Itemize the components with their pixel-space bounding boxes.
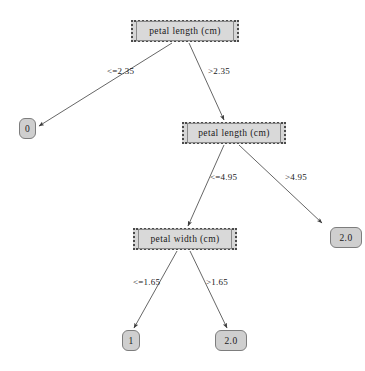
decision-node-n3[interactable]: petal width (cm)	[133, 228, 237, 250]
edge-label-e3: >4.95	[285, 172, 307, 182]
edge-label-e1: >2.35	[208, 66, 230, 76]
decision-node-label: petal width (cm)	[138, 229, 232, 249]
edge-label-e0: <=2.35	[107, 66, 134, 76]
leaf-node-n1[interactable]: 0	[19, 118, 36, 139]
tree-edge-e0	[39, 43, 172, 126]
tree-edge-e1	[189, 43, 224, 120]
leaf-node-n4[interactable]: 2.0	[330, 227, 362, 248]
edge-label-e4: <=1.65	[133, 277, 160, 287]
decision-node-label: petal length (cm)	[136, 21, 234, 41]
tree-edge-e3	[239, 145, 322, 223]
decision-node-n2[interactable]: petal length (cm)	[182, 122, 286, 144]
tree-edge-e5	[190, 251, 227, 328]
leaf-node-n5[interactable]: 1	[122, 330, 140, 351]
decision-node-n0[interactable]: petal length (cm)	[131, 20, 239, 42]
tree-edge-e2	[188, 145, 224, 226]
tree-edge-e4	[134, 251, 177, 328]
decision-node-label: petal length (cm)	[187, 123, 281, 143]
edge-label-e2: <=4.95	[210, 172, 237, 182]
tree-edges-canvas	[0, 0, 365, 371]
leaf-node-n6[interactable]: 2.0	[215, 330, 247, 351]
edge-label-e5: >1.65	[206, 277, 228, 287]
